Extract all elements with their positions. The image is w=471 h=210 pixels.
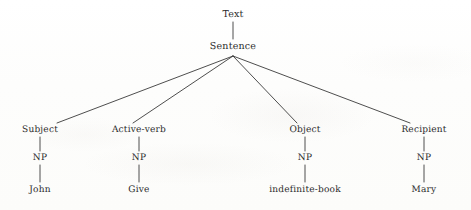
node-text-root: Text xyxy=(222,9,243,20)
node-np-subject: NP xyxy=(33,153,47,163)
node-leaf-mary: Mary xyxy=(412,185,437,195)
node-role-object: Object xyxy=(289,125,320,135)
edge-sentence-to-active-verb xyxy=(133,56,233,123)
node-role-subject: Subject xyxy=(22,125,58,135)
node-np-recipient: NP xyxy=(417,153,431,163)
node-leaf-give: Give xyxy=(128,185,149,195)
edge-sentence-to-recipient xyxy=(233,56,410,123)
node-role-active-verb: Active-verb xyxy=(112,125,166,135)
node-sentence: Sentence xyxy=(210,41,256,52)
edge-sentence-to-object xyxy=(233,56,297,123)
tree-edges xyxy=(0,0,471,210)
node-role-recipient: Recipient xyxy=(401,125,446,135)
node-leaf-indefinite-book: indefinite-book xyxy=(269,185,341,195)
node-np-object: NP xyxy=(298,153,312,163)
edge-sentence-to-subject xyxy=(57,56,233,123)
node-leaf-john: John xyxy=(29,185,50,195)
parse-tree-diagram: Text Sentence Subject Active-verb Object… xyxy=(0,0,471,210)
node-np-active-verb: NP xyxy=(132,153,146,163)
